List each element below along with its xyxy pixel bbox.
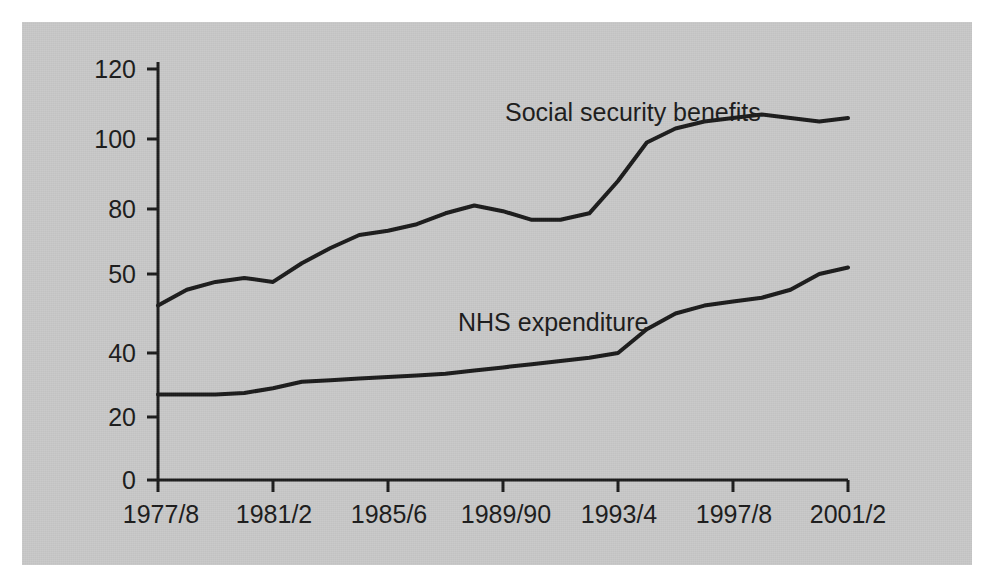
y-tick-label-80: 80 <box>58 197 136 222</box>
x-tick-label-1989-90: 1989/90 <box>461 502 551 527</box>
chart-figure: 120 100 80 50 40 20 0 1977/8 1981/2 1985… <box>0 0 994 587</box>
series-label-nhs-expenditure: NHS expenditure <box>458 310 648 335</box>
series-social-security-benefits <box>158 115 848 306</box>
y-tick-label-120: 120 <box>58 57 136 82</box>
x-axis-ticks <box>158 480 848 492</box>
y-tick-label-40: 40 <box>58 341 136 366</box>
y-tick-label-100: 100 <box>58 127 136 152</box>
x-tick-label-1977-8: 1977/8 <box>123 502 199 527</box>
y-tick-label-20: 20 <box>58 405 136 430</box>
social-security-benefits-line <box>158 115 848 306</box>
x-tick-label-1993-4: 1993/4 <box>581 502 657 527</box>
x-tick-label-1997-8: 1997/8 <box>696 502 772 527</box>
x-tick-label-2001-2: 2001/2 <box>810 502 886 527</box>
x-tick-label-1981-2: 1981/2 <box>236 502 312 527</box>
line-chart-plot <box>22 22 972 565</box>
x-tick-label-1985-6: 1985/6 <box>351 502 427 527</box>
series-label-social-security-benefits: Social security benefits <box>505 100 761 125</box>
y-tick-label-50: 50 <box>58 262 136 287</box>
y-axis-ticks <box>147 69 158 480</box>
y-tick-label-0: 0 <box>58 468 136 493</box>
chart-panel: 120 100 80 50 40 20 0 1977/8 1981/2 1985… <box>22 22 972 565</box>
